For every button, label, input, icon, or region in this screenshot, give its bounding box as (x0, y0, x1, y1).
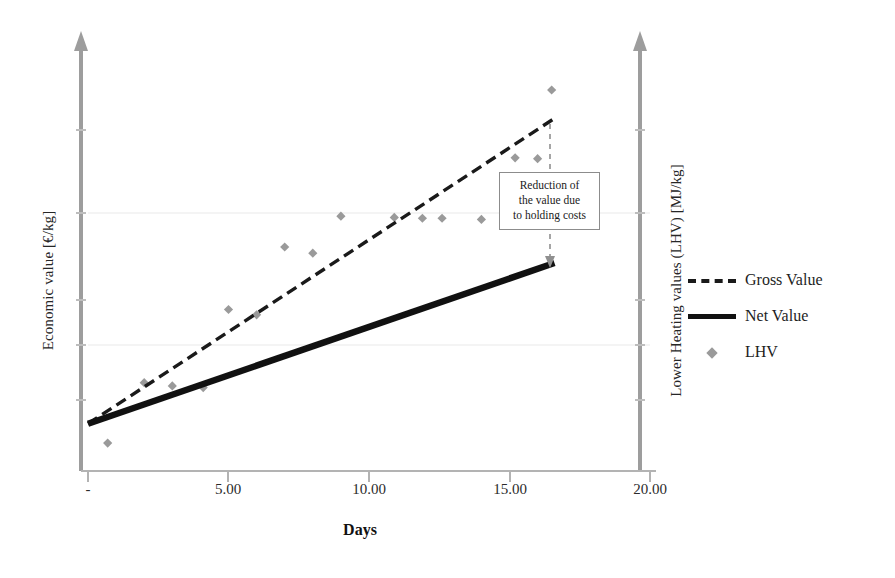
diamond-marker-icon (688, 345, 736, 359)
solid-line-icon (688, 309, 736, 323)
lhv-data-point (547, 85, 556, 94)
annotation-line-1: Reduction of (504, 178, 595, 193)
y-axis-left-title: Economic value [€/kg] (40, 136, 57, 426)
lhv-data-point (437, 214, 446, 223)
chart-legend: Gross Value Net Value LHV (688, 262, 888, 370)
lhv-data-point (533, 154, 542, 163)
annotation-line-2: the value due (504, 193, 595, 208)
x-tick-label-10: 10.00 (329, 481, 409, 498)
lhv-data-point (308, 249, 317, 258)
lhv-data-point (103, 438, 112, 447)
lhv-data-point (418, 214, 427, 223)
lhv-data-point (168, 381, 177, 390)
y-axis-right-title: Lower Heating values (LHV) [MJ/kg] (668, 136, 685, 426)
legend-item-net-value: Net Value (688, 298, 888, 334)
legend-label-net-value: Net Value (745, 307, 808, 325)
legend-item-gross-value: Gross Value (688, 262, 888, 298)
reduction-annotation-box: Reduction of the value due to holding co… (499, 172, 600, 230)
y-axis-right (633, 31, 647, 471)
lhv-data-point (477, 215, 486, 224)
dashed-line-icon (688, 273, 736, 287)
legend-item-lhv: LHV (688, 334, 888, 370)
legend-label-lhv: LHV (745, 343, 778, 361)
x-tick-label-5: 5.00 (188, 481, 268, 498)
lhv-data-point (280, 242, 289, 251)
lhv-data-point (224, 305, 233, 314)
legend-label-gross-value: Gross Value (745, 271, 822, 289)
annotation-line-3: to holding costs (504, 208, 595, 223)
x-tick-label-15: 15.00 (470, 481, 550, 498)
y-axis-left (74, 31, 88, 471)
x-axis-title: Days (0, 521, 720, 539)
x-tick-label-20: 20.00 (610, 481, 690, 498)
x-tick-label-0: - (48, 481, 128, 498)
lhv-data-point (511, 153, 520, 162)
lhv-data-point (390, 213, 399, 222)
gross-value-line (88, 118, 554, 423)
net-value-line (88, 263, 554, 424)
